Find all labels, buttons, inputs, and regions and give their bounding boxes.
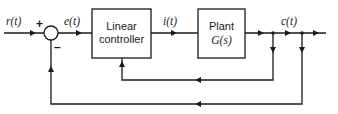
control-signal-path [151,30,198,36]
input-signal-label: r(t) [6,15,22,28]
arrow-down-icon [299,47,305,53]
arrow-left-icon [195,101,201,107]
outer-feedback-path [48,33,305,107]
arrow-up-icon [48,66,54,72]
control-signal-label: i(t) [163,15,177,28]
plant-label-line2: G(s) [211,34,232,47]
arrow-down-icon [270,47,276,53]
minus-sign: – [54,40,61,54]
arrow-right-icon [313,30,319,36]
arrow-left-icon [195,77,201,83]
plant-label-line1: Plant [209,20,234,32]
block-diagram: r(t) + – e(t) Linear controller i(t) Pla… [0,0,338,114]
output-signal-label: c(t) [281,15,297,28]
error-signal-path [58,30,92,36]
output-signal-path [245,30,326,36]
plant-block: Plant G(s) [198,9,245,58]
controller-label-line1: Linear [106,20,137,32]
arrow-right-icon [285,30,291,36]
arrow-right-icon [171,30,177,36]
arrow-up-icon [119,61,125,67]
controller-block: Linear controller [92,9,151,58]
plus-sign: + [36,17,43,31]
arrow-right-icon [258,30,264,36]
controller-label-line2: controller [99,33,145,45]
arrow-right-icon [76,30,82,36]
summing-junction [44,26,58,40]
error-signal-label: e(t) [64,15,80,28]
